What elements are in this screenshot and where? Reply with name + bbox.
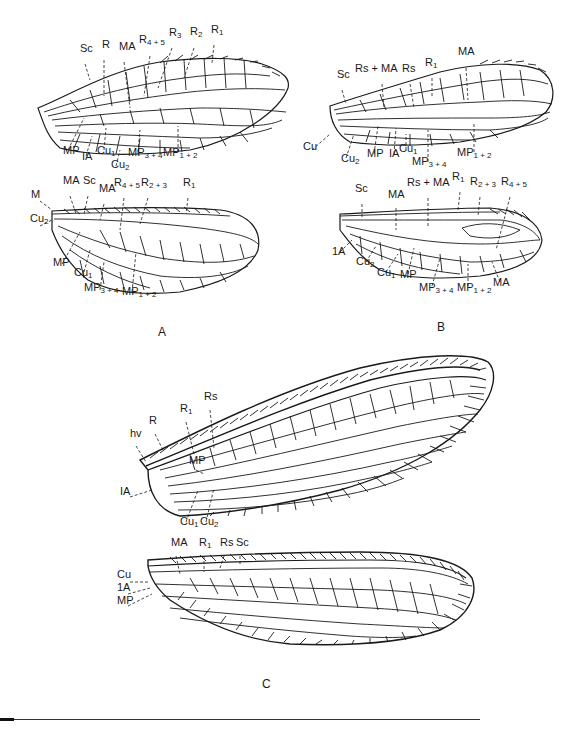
vein-label-base: Cu — [97, 144, 111, 156]
vein-label-base: R — [452, 170, 460, 182]
vein-label-base: 1A — [117, 581, 130, 593]
vein-label-subscript: 3 + 4 — [436, 286, 454, 295]
vein-label: MP1 + 2 — [457, 147, 492, 161]
vein-label: Sc — [355, 183, 368, 194]
vein-label-subscript: 1 — [219, 28, 223, 37]
vein-label-base: Cu — [111, 158, 125, 170]
vein-label: R2 + 3 — [141, 177, 167, 191]
page-rule — [0, 719, 480, 720]
vein-label: Sc — [80, 43, 93, 54]
vein-label: MA — [63, 175, 80, 186]
vein-label: 1A — [332, 246, 345, 257]
vein-label-base: MP — [457, 281, 474, 293]
vein-label-base: Cu — [377, 266, 391, 278]
vein-label-base: M — [31, 188, 40, 200]
vein-label: Cu2 — [111, 159, 130, 173]
vein-label: MA — [171, 537, 188, 548]
vein-label: R4 + 5 — [114, 177, 140, 191]
vein-label: MP3 + 4 — [419, 282, 454, 296]
vein-label-base: MP — [400, 268, 417, 280]
vein-label: MP3 + 4 — [412, 156, 447, 170]
vein-label-base: R — [139, 33, 147, 45]
vein-label: R4 + 5 — [139, 34, 165, 48]
vein-label-subscript: 1 — [207, 541, 211, 550]
vein-label-subscript: 1 — [191, 181, 195, 190]
vein-label: hv — [130, 428, 142, 439]
vein-label-base: IA — [120, 485, 130, 497]
vein-label: MP3 + 4 — [84, 282, 119, 296]
vein-label: MP1 + 2 — [457, 282, 492, 296]
panel-letter-a: A — [158, 325, 166, 339]
vein-label-base: R — [501, 175, 509, 187]
vein-label: Rs + MA — [407, 177, 449, 188]
vein-label-base: R — [199, 536, 207, 548]
vein-label-subscript: 2 — [214, 520, 218, 529]
vein-label: IA — [389, 148, 399, 159]
vein-label-subscript: 1 + 2 — [474, 286, 492, 295]
vein-label-base: Cu — [117, 568, 131, 580]
vein-label: M — [31, 189, 40, 200]
vein-label-base: R — [102, 38, 110, 50]
vein-label-base: Rs — [204, 390, 217, 402]
vein-label: Sc — [83, 175, 96, 186]
vein-label-subscript: 4 + 5 — [122, 181, 140, 190]
vein-label-base: R — [180, 402, 188, 414]
vein-label: MA — [119, 41, 136, 52]
vein-label: Cu — [303, 141, 317, 152]
vein-label-subscript: 1 + 2 — [139, 290, 157, 299]
wing-venation-drawing — [0, 0, 578, 730]
vein-label: Cu1 — [74, 267, 93, 281]
vein-label: R1 — [211, 24, 223, 38]
vein-label-base: MA — [458, 45, 475, 57]
vein-label-base: Rs — [220, 536, 233, 548]
page-rule-tab — [0, 718, 14, 721]
vein-label: MA — [493, 277, 510, 288]
vein-label: R1 — [180, 403, 192, 417]
vein-label: Cu2 — [356, 256, 375, 270]
vein-label: R — [149, 415, 157, 426]
vein-label-subscript: 2 — [44, 217, 48, 226]
vein-label: Cu — [117, 569, 131, 580]
vein-label-base: IA — [82, 150, 92, 162]
vein-label-base: MP — [189, 454, 206, 466]
vein-label-base: 1A — [332, 245, 345, 257]
vein-label-base: MA — [119, 40, 136, 52]
vein-label-base: R — [141, 176, 149, 188]
vein-label: IA — [82, 151, 92, 162]
vein-label-base: Sc — [80, 42, 93, 54]
vein-label-base: MP — [163, 146, 180, 158]
vein-label-base: Sc — [236, 536, 249, 548]
vein-label: R1 — [199, 537, 211, 551]
wing-a-forewing — [38, 55, 288, 154]
vein-label: Cu2 — [341, 153, 360, 167]
vein-label-subscript: 2 — [125, 163, 129, 172]
vein-label: MP1 + 2 — [122, 286, 157, 300]
vein-label: MP — [189, 455, 206, 466]
vein-label-base: R — [425, 56, 433, 68]
panel-letter-c: C — [262, 677, 271, 691]
vein-label-base: Rs + MA — [355, 62, 397, 74]
vein-label-base: IA — [389, 147, 399, 159]
vein-label: R1 — [452, 171, 464, 185]
vein-label-base: MP — [412, 155, 429, 167]
vein-label-base: MP — [128, 146, 145, 158]
vein-label: IA — [120, 486, 130, 497]
vein-label: MA — [388, 189, 405, 200]
vein-label-base: R — [183, 176, 191, 188]
vein-label-subscript: 1 — [88, 271, 92, 280]
vein-label-base: R — [470, 175, 478, 187]
vein-label-base: MP — [419, 281, 436, 293]
vein-label: R2 + 3 — [470, 176, 496, 190]
vein-label-subscript: 1 — [188, 407, 192, 416]
vein-label-base: hv — [130, 427, 142, 439]
vein-label: Rs — [220, 537, 233, 548]
vein-label-base: Cu — [200, 515, 214, 527]
vein-label-base: R — [190, 25, 198, 37]
vein-label-base: Cu — [356, 255, 370, 267]
vein-label: MP1 + 2 — [163, 147, 198, 161]
vein-label: Cu1 — [180, 516, 199, 530]
vein-label: R — [102, 39, 110, 50]
vein-label-base: Sc — [337, 68, 350, 80]
vein-label: R3 — [169, 27, 181, 41]
vein-label-base: MA — [63, 174, 80, 186]
